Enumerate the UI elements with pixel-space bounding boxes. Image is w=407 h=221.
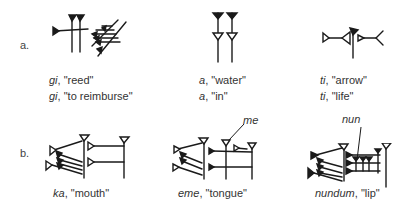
annotation-leader-me: [226, 122, 246, 142]
cuneiform-sign-ti: [320, 26, 390, 62]
gloss-line: a, "in": [199, 88, 246, 104]
annotation-nun: nun: [342, 113, 360, 125]
cuneiform-sign-a: [210, 10, 240, 66]
cuneiform-sign-ka: [44, 134, 134, 180]
gloss-line: a, "water": [199, 72, 246, 88]
cuneiform-sign-eme: [172, 137, 262, 181]
gloss-line: ti, "arrow": [320, 72, 367, 88]
cuneiform-sign-nundum: [306, 143, 396, 189]
gloss-line: gi, "reed": [49, 72, 133, 88]
gloss-gi: gi, "reed" gi, "to reimburse": [49, 72, 133, 104]
gloss-ti: ti, "arrow" ti, "life": [320, 72, 367, 104]
row-label-a: a.: [20, 39, 29, 51]
gloss-a: a, "water" a, "in": [199, 72, 246, 104]
gloss-ka: ka, "mouth": [53, 185, 109, 201]
row-label-b: b.: [20, 147, 29, 159]
gloss-eme: eme, "tongue": [178, 185, 247, 201]
gloss-nundum: nundum, "lip": [315, 185, 380, 201]
cuneiform-sign-gi: [50, 12, 130, 58]
gloss-line: gi, "to reimburse": [49, 88, 133, 104]
gloss-line: ti, "life": [320, 88, 367, 104]
annotation-leader-nun: [355, 126, 365, 162]
